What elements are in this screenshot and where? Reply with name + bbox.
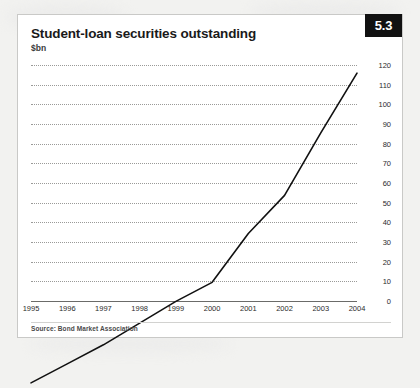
source-divider	[31, 322, 391, 323]
x-axis-tick-label: 1997	[95, 304, 112, 313]
chart-units-label: $bn	[31, 43, 46, 53]
x-axis-tick-label: 2004	[349, 304, 366, 313]
x-axis-tick-labels: 1995199619971998199920002001200220032004	[31, 304, 357, 318]
x-axis-tick-label: 2001	[240, 304, 257, 313]
y-axis-tick-label: 10	[361, 277, 391, 286]
x-axis-tick-label: 2003	[312, 304, 329, 313]
y-axis-tick-label: 70	[361, 159, 391, 168]
x-axis-tick-label: 1998	[131, 304, 148, 313]
y-axis-tick-label: 30	[361, 238, 391, 247]
plot-area: 0102030405060708090100110120	[31, 65, 391, 301]
x-axis-tick-label: 1999	[168, 304, 185, 313]
figure-number-badge: 5.3	[365, 14, 402, 37]
source-note: Source: Bond Market Association	[31, 325, 138, 332]
x-axis-tick-label: 2000	[204, 304, 221, 313]
chart-card: Student-loan securities outstanding $bn …	[17, 14, 403, 338]
y-axis-tick-label: 90	[361, 120, 391, 129]
y-axis-tick-label: 80	[361, 139, 391, 148]
x-axis-tick-label: 1996	[59, 304, 76, 313]
series-line-path	[31, 73, 357, 383]
y-axis-tick-label: 20	[361, 257, 391, 266]
x-axis-tick-label: 1995	[23, 304, 40, 313]
y-axis-tick-label: 60	[361, 179, 391, 188]
y-axis-tick-label: 40	[361, 218, 391, 227]
x-axis-tick-label: 2002	[276, 304, 293, 313]
y-axis-tick-label: 50	[361, 198, 391, 207]
y-axis-tick-label: 110	[361, 80, 391, 89]
y-axis-tick-label: 100	[361, 100, 391, 109]
page-title: Student-loan securities outstanding	[31, 26, 256, 41]
y-axis-tick-label: 0	[361, 297, 391, 306]
y-axis-tick-label: 120	[361, 61, 391, 70]
chart-header: Student-loan securities outstanding $bn …	[18, 15, 402, 59]
series-line-chart	[31, 65, 357, 388]
